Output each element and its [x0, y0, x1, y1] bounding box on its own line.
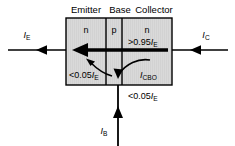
doping-label-base: p	[111, 25, 116, 35]
terminal-label-emitter: IE	[24, 30, 32, 41]
terminal-label-base: IB	[101, 126, 109, 137]
terminal-label-collector: IC	[202, 30, 210, 41]
doping-label-emitter: n	[83, 25, 88, 35]
region-heading-emitter: Emitter	[71, 4, 101, 15]
diagram-canvas: Emitter Base Collector n p n >0.95IE <0.…	[0, 0, 235, 146]
collector-lead	[172, 45, 228, 55]
transistor-current-diagram: Emitter Base Collector n p n >0.95IE <0.…	[0, 0, 235, 146]
annotation-base-current: <0.05IE	[128, 91, 158, 102]
doping-label-collector: n	[144, 25, 149, 35]
emitter-lead	[8, 45, 66, 55]
region-heading-base: Base	[109, 4, 131, 15]
region-heading-collector: Collector	[135, 4, 173, 15]
base-lead	[113, 85, 123, 146]
